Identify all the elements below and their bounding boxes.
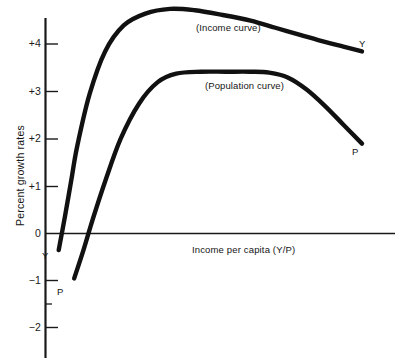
y-tick-label-minus-2: −2: [15, 321, 41, 333]
population-curve-endpoint-label: P: [352, 146, 358, 157]
income-curve-origin-label: Y: [42, 250, 48, 261]
y-tick-label-plus-4: +4: [15, 37, 41, 49]
income-curve-annotation: (Income curve): [196, 22, 261, 33]
y-axis-major-ticks: [45, 44, 58, 328]
x-axis-title: Income per capita (Y/P): [192, 244, 295, 255]
y-axis-title: Percent growth rates: [14, 125, 26, 226]
income-curve-endpoint-label: Y: [359, 38, 365, 49]
chart-plot-area: [0, 0, 402, 361]
growth-rate-chart: +4 +3 +2 +1 0 −1 −2 Percent growth rates…: [0, 0, 402, 361]
y-tick-label-plus-3: +3: [15, 85, 41, 97]
y-tick-label-minus-1: −1: [15, 274, 41, 286]
income-curve-path: [59, 9, 362, 250]
population-curve-origin-label: P: [57, 286, 63, 297]
y-tick-label-zero: 0: [15, 227, 41, 239]
population-curve-annotation: (Population curve): [205, 80, 284, 91]
